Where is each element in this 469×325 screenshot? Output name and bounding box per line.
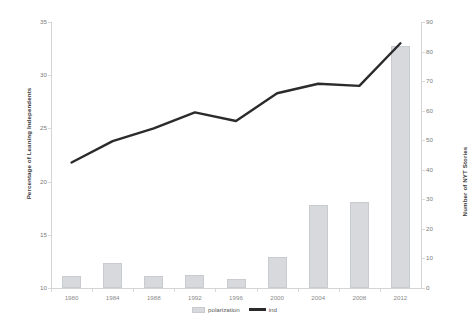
line-path bbox=[72, 43, 401, 162]
legend-item-ind[interactable]: ind bbox=[249, 306, 277, 313]
legend-label-ind: ind bbox=[269, 306, 277, 313]
legend-label-polarization: polarization bbox=[208, 306, 240, 313]
legend-line-swatch-icon bbox=[249, 308, 266, 311]
chart-container: Percentage of Leaning Independents Numbe… bbox=[0, 0, 469, 325]
legend-item-polarization[interactable]: polarization bbox=[192, 306, 240, 313]
legend-bar-swatch-icon bbox=[192, 307, 205, 313]
line-series-ind bbox=[0, 0, 469, 325]
chart-legend: polarization ind bbox=[0, 306, 469, 313]
